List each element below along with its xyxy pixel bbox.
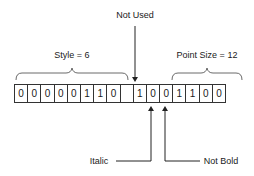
bit-cell: 0 [27, 84, 41, 103]
point-size-group-label: Point Size = 12 [177, 50, 238, 60]
bit-cell: 0 [40, 84, 54, 103]
bit-cell: 0 [14, 84, 28, 103]
not-used-label: Not Used [116, 10, 154, 20]
italic-label: Italic [90, 156, 109, 166]
bit-cell-italic: 1 [133, 84, 147, 103]
bit-cell: 1 [93, 84, 107, 103]
bit-cell-bold: 0 [146, 84, 160, 103]
style-group-label: Style = 6 [54, 50, 89, 60]
bit-field: 0 0 0 0 0 1 1 0 1 0 0 1 1 0 0 [15, 84, 226, 103]
bit-cell: 1 [172, 84, 186, 103]
bit-cell: 1 [80, 84, 94, 103]
bit-cell: 0 [159, 84, 173, 103]
bit-cell: 0 [67, 84, 81, 103]
bit-cell-unused [120, 84, 134, 103]
bit-cell: 0 [54, 84, 68, 103]
bit-cell: 1 [185, 84, 199, 103]
not-bold-label: Not Bold [204, 156, 239, 166]
bit-cell: 0 [199, 84, 213, 103]
bit-cell: 0 [106, 84, 120, 103]
bit-cell: 0 [212, 84, 226, 103]
